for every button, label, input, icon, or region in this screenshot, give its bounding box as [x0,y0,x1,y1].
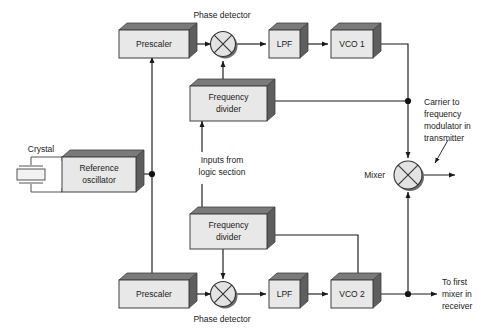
label-phase-detector-bottom: Phase detector [193,314,250,324]
mixer-main[interactable] [394,161,424,191]
label-phase-detector-top: Phase detector [193,10,250,20]
block-frequency-divider-bottom[interactable]: Frequency divider [190,207,275,249]
label-to-first-mixer-line1: To first [442,277,468,287]
block-diagram-canvas: Prescaler LPF VCO 1 Frequency divider [0,0,489,331]
mixer-phase-detector-top[interactable] [211,32,238,59]
block-label-vco-1: VCO 1 [339,39,365,49]
wire-frequency-divider-bottom-to-vco2 [267,235,358,279]
junction-dot-reference [149,171,155,177]
block-diagram-svg: Prescaler LPF VCO 1 Frequency divider [0,0,489,331]
leader-carrier-annotation [435,140,448,163]
label-carrier-line3: modulator in [424,121,471,131]
crystal-symbol [17,157,62,192]
label-inputs-from-logic-line2: logic section [199,167,246,177]
block-reference-oscillator[interactable]: Reference oscillator [62,150,144,192]
block-vco-2[interactable]: VCO 2 [331,273,381,308]
block-label-frequency-divider-top-line1: Frequency [208,92,249,102]
block-lpf-bottom[interactable]: LPF [269,273,308,308]
block-label-vco-2: VCO 2 [339,289,365,299]
block-label-reference-oscillator-line1: Reference [79,163,118,173]
block-vco-1[interactable]: VCO 1 [331,23,381,58]
block-label-frequency-divider-bottom-line1: Frequency [208,220,249,230]
block-label-frequency-divider-top-line2: divider [216,104,241,114]
label-to-first-mixer-line2: mixer in [442,289,472,299]
label-carrier-line4: transmitter [424,133,464,143]
label-mixer: Mixer [364,170,385,180]
label-carrier-line1: Carrier to [424,97,460,107]
wire-vco2-output [373,192,437,297]
label-inputs-from-logic-line1: Inputs from [201,155,244,165]
block-lpf-top[interactable]: LPF [269,23,308,58]
label-crystal: Crystal [28,144,55,154]
block-label-lpf-bottom: LPF [277,289,293,299]
block-label-reference-oscillator-line2: oscillator [82,175,116,185]
block-label-frequency-divider-bottom-line2: divider [216,232,241,242]
block-prescaler-bottom[interactable]: Prescaler [119,273,197,308]
block-frequency-divider-top[interactable]: Frequency divider [190,79,275,121]
label-carrier-line2: frequency [424,109,462,119]
block-prescaler-top[interactable]: Prescaler [119,23,197,58]
label-to-first-mixer-line3: receiver [442,301,472,311]
block-label-lpf-top: LPF [277,39,293,49]
mixer-phase-detector-bottom[interactable] [211,282,238,309]
block-label-prescaler-bottom: Prescaler [136,289,172,299]
block-label-prescaler-top: Prescaler [136,39,172,49]
